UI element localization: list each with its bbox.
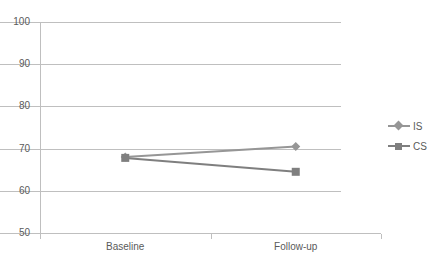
legend-label-cs: CS <box>410 141 427 152</box>
chart-legend: IS CS <box>388 116 440 156</box>
legend-square-marker-icon <box>388 140 410 152</box>
legend-diamond-marker-icon <box>388 120 410 132</box>
series-is <box>121 142 301 162</box>
legend-item-is[interactable]: IS <box>388 116 440 136</box>
series-line-cs <box>125 158 296 172</box>
series-plot <box>0 0 441 264</box>
line-chart: 5060708090100 BaselineFollow-up IS CS <box>0 0 441 264</box>
legend-label-is: IS <box>410 121 422 132</box>
data-point-diamond-is-1 <box>291 142 300 151</box>
data-point-square-cs-0 <box>121 154 129 162</box>
data-point-square-cs-1 <box>292 168 300 176</box>
series-cs <box>121 154 300 176</box>
series-line-is <box>125 146 296 157</box>
legend-item-cs[interactable]: CS <box>388 136 440 156</box>
